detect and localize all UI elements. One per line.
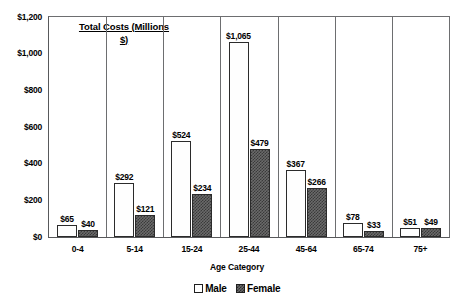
x-axis-tick-label: 25-44 [220, 244, 277, 254]
legend-label: Female [247, 283, 280, 294]
legend-item-male[interactable]: Male [194, 283, 227, 294]
y-axis-tick-label: $400 [0, 158, 42, 168]
x-axis-tick-label: 0-4 [49, 244, 106, 254]
legend-swatch-male [194, 284, 203, 293]
bar-value-label: $1,065 [222, 31, 256, 41]
x-axis-tick-label: 15-24 [163, 244, 220, 254]
legend-swatch-female [236, 284, 245, 293]
bar-chart: $0$200$400$600$800$1,000$1,200 Total Cos… [0, 0, 474, 304]
y-axis-tick-label: $1,000 [0, 48, 42, 58]
category-separator [335, 17, 336, 237]
bar-value-label: $524 [164, 130, 198, 140]
chart-legend: MaleFemale [0, 283, 474, 294]
bar-value-label: $33 [357, 220, 391, 230]
bar-female-0-4 [78, 230, 98, 237]
plot-area: Total Costs (Millions $) $65$40$292$121$… [48, 16, 450, 238]
bar-female-5-14 [135, 215, 155, 237]
plot-inner: $65$40$292$121$524$234$1,065$479$367$266… [49, 17, 449, 237]
y-axis-tick-label: $600 [0, 122, 42, 132]
bar-female-45-64 [307, 188, 327, 237]
bar-value-label: $367 [279, 159, 313, 169]
y-axis-tick-label: $1,200 [0, 12, 42, 22]
bar-value-label: $479 [243, 138, 277, 148]
x-axis-tick-label: 5-14 [106, 244, 163, 254]
bar-value-label: $121 [128, 204, 162, 214]
bar-value-label: $49 [414, 217, 448, 227]
y-axis-tick-label: $200 [0, 195, 42, 205]
bar-value-label: $234 [185, 183, 219, 193]
legend-label: Male [205, 283, 226, 294]
bar-value-label: $292 [107, 172, 141, 182]
bar-value-label: $266 [300, 177, 334, 187]
x-axis-tick-label: 65-74 [335, 244, 392, 254]
x-axis-tick-label: 45-64 [278, 244, 335, 254]
y-axis-tick-label: $0 [0, 232, 42, 242]
category-separator [278, 17, 279, 237]
x-axis-title: Age Category [0, 262, 474, 272]
category-separator [220, 17, 221, 237]
legend-item-female[interactable]: Female [236, 283, 281, 294]
category-separator [163, 17, 164, 237]
bar-male-75+ [400, 228, 420, 237]
bar-female-25-44 [250, 149, 270, 237]
x-axis-tick-label: 75+ [392, 244, 449, 254]
bar-value-label: $40 [71, 219, 105, 229]
bar-female-65-74 [364, 231, 384, 237]
category-separator [106, 17, 107, 237]
bar-female-75+ [421, 228, 441, 237]
bar-female-15-24 [192, 194, 212, 237]
category-separator [392, 17, 393, 237]
y-axis-tick-label: $800 [0, 85, 42, 95]
